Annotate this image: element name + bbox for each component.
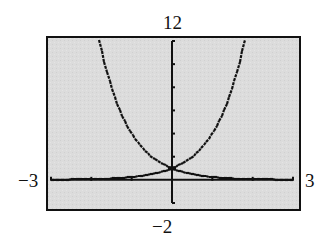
curve-segment-1 [135, 176, 138, 177]
curve-segment-1 [158, 172, 161, 173]
curve-segment-1 [166, 170, 168, 171]
intersection-marker [168, 166, 176, 170]
graph-screen [0, 0, 328, 240]
ymax-label: 12 [163, 13, 182, 32]
curve-segment-1 [161, 171, 163, 172]
curve-segment-2 [273, 179, 275, 180]
curve-segment-2 [153, 158, 155, 159]
screen-background [47, 37, 300, 210]
curve-segment-1 [153, 173, 155, 174]
curve-segment-1 [143, 175, 145, 176]
curve-segment-2 [163, 164, 166, 165]
curve-segment-1 [125, 177, 127, 178]
curve-segment-1 [189, 158, 191, 159]
curve-segment-2 [206, 176, 209, 177]
curve-segment-1 [69, 179, 71, 180]
curve-segment-2 [194, 174, 196, 175]
curve-segment-2 [183, 172, 186, 173]
curve-segment-2 [181, 171, 183, 172]
curve-segment-1 [148, 174, 150, 175]
curve-segment-2 [166, 165, 168, 167]
curve-segment-1 [110, 178, 112, 179]
curve-segment-2 [232, 178, 234, 179]
curve-segment-2 [189, 173, 191, 174]
curve-segment-2 [176, 170, 178, 171]
curve-segment-1 [178, 164, 181, 165]
xmax-label: 3 [305, 171, 315, 190]
curve-segment-2 [161, 163, 163, 164]
xmin-label: −3 [18, 171, 38, 190]
curve-segment-1 [176, 165, 178, 167]
ymin-label: −2 [152, 217, 172, 236]
curve-segment-1 [181, 163, 183, 164]
curve-segment-2 [199, 175, 201, 176]
curve-segment-2 [217, 177, 219, 178]
